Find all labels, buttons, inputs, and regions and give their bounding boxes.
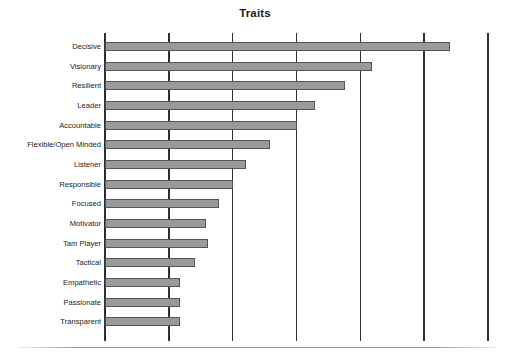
bar-row: [105, 312, 488, 332]
bar: [105, 81, 345, 90]
bar-row: [105, 253, 488, 273]
y-axis-tick-label: Passionate: [1, 298, 101, 307]
bar: [105, 199, 219, 208]
y-axis-tick-label: Focused: [1, 199, 101, 208]
bar-row: [105, 37, 488, 57]
chart-container: Traits DecisiveVisionaryResilientLeaderA…: [0, 0, 510, 358]
y-axis-tick-label: Visionary: [1, 62, 101, 71]
bar-row: [105, 194, 488, 214]
bar: [105, 140, 270, 149]
bar: [105, 258, 195, 267]
x-axis-tick: [296, 332, 298, 341]
y-axis-tick-label: Responsible: [1, 180, 101, 189]
plot-area: [105, 37, 488, 332]
bar: [105, 121, 297, 130]
y-axis-tick-label: Tam Player: [1, 239, 101, 248]
y-axis-tick-label: Leader: [1, 101, 101, 110]
bar-row: [105, 57, 488, 77]
bar: [105, 298, 180, 307]
bar-row: [105, 155, 488, 175]
x-axis-tick: [168, 332, 170, 341]
bar-row: [105, 135, 488, 155]
bar: [105, 62, 372, 71]
y-axis-labels: DecisiveVisionaryResilientLeaderAccounta…: [0, 37, 101, 332]
bar-row: [105, 234, 488, 254]
x-axis-tick: [423, 332, 425, 341]
x-axis-tick: [360, 332, 362, 341]
y-axis-tick-label: Resilient: [1, 81, 101, 90]
chart-title: Traits: [0, 7, 510, 19]
footer-divider: [18, 347, 496, 348]
x-axis-tick: [232, 332, 234, 341]
bar-row: [105, 293, 488, 313]
bar: [105, 278, 180, 287]
y-axis-tick-label: Listener: [1, 160, 101, 169]
y-axis-tick-label: Empathetic: [1, 278, 101, 287]
y-axis-tick-label: Flexible/Open Minded: [1, 140, 101, 149]
bar: [105, 42, 450, 51]
y-axis-tick-label: Motivator: [1, 219, 101, 228]
y-axis-tick-label: Decisive: [1, 42, 101, 51]
bar: [105, 317, 180, 326]
bar-row: [105, 214, 488, 234]
y-axis-tick-label: Transparent: [1, 317, 101, 326]
bar: [105, 160, 246, 169]
y-axis-tick-label: Accountable: [1, 121, 101, 130]
x-axis-tick: [104, 332, 106, 341]
bar-row: [105, 273, 488, 293]
bar-row: [105, 175, 488, 195]
bar: [105, 219, 206, 228]
bar: [105, 239, 208, 248]
bar: [105, 180, 233, 189]
y-axis-tick-label: Tactical: [1, 258, 101, 267]
bar-row: [105, 116, 488, 136]
bar-row: [105, 76, 488, 96]
x-axis-tick: [487, 332, 489, 341]
bar-row: [105, 96, 488, 116]
bar: [105, 101, 315, 110]
